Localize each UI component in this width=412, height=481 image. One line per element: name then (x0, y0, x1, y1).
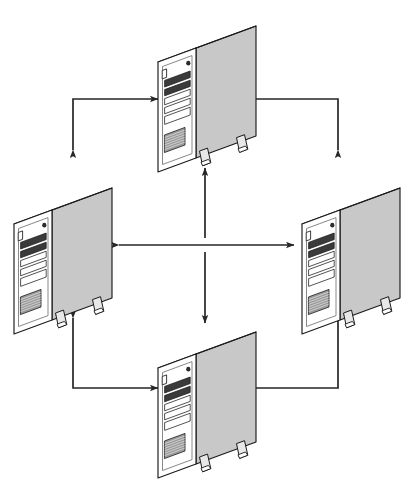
server-tower-top[interactable] (158, 26, 256, 172)
server-tower-bottom[interactable] (158, 332, 256, 478)
diagram-canvas (0, 0, 412, 481)
server-tower-left[interactable] (14, 188, 112, 334)
node-layer (14, 26, 400, 478)
topology-svg (0, 0, 412, 481)
link-left-to-top[interactable] (73, 99, 158, 150)
server-tower-right[interactable] (302, 188, 400, 334)
link-left-to-bottom[interactable] (73, 318, 158, 388)
